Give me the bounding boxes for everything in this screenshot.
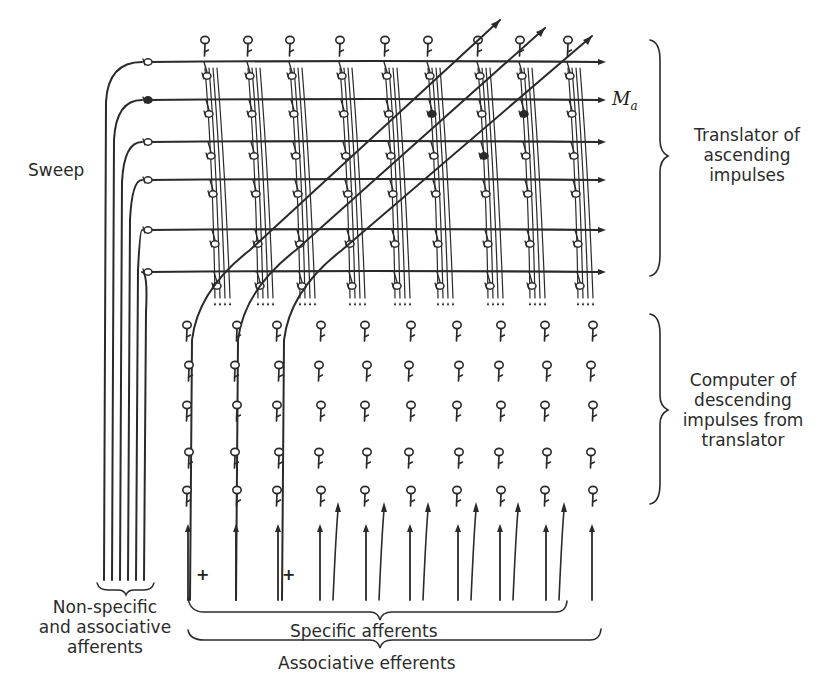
- computer-neuron-icon: [495, 448, 503, 455]
- computer-neuron-icon: [405, 361, 413, 368]
- efferent-fiber: [471, 510, 476, 600]
- neuron-axon: [593, 494, 594, 506]
- computer-neuron-icon: [361, 486, 369, 493]
- top-neuron-icon: [201, 36, 209, 43]
- computer-neuron-icon: [231, 361, 239, 368]
- fiber-end-icon: [534, 302, 536, 305]
- fiber-end-icon: [364, 302, 366, 305]
- label-translator: Translator of ascending impulses: [672, 125, 822, 185]
- computer-neuron-icon: [273, 321, 281, 328]
- neuron-axon: [501, 329, 502, 341]
- neuron-axon: [545, 329, 546, 341]
- neuron-axon: [545, 409, 546, 421]
- row-output-arrow-icon: [598, 269, 606, 275]
- computer-neuron-icon: [543, 361, 551, 368]
- computer-neuron-icon: [587, 448, 595, 455]
- computer-neuron-icon: [363, 361, 371, 368]
- computer-neuron-icon: [587, 361, 595, 368]
- plus-sign-2: +: [282, 565, 295, 584]
- computer-neuron-icon: [183, 486, 191, 493]
- fiber-end-icon: [582, 302, 584, 305]
- computer-neuron-icon: [361, 401, 369, 408]
- efferent-arrow-icon: [425, 502, 431, 512]
- fiber-end-icon: [394, 302, 396, 305]
- fiber-end-icon: [592, 302, 594, 305]
- efferent-arrow-icon: [335, 502, 341, 512]
- fiber-end-icon: [442, 302, 444, 305]
- computer-neuron-icon: [317, 401, 325, 408]
- afferent-arrow-icon: [589, 524, 595, 532]
- computer-neuron-icon: [541, 401, 549, 408]
- computer-neuron-icon: [497, 401, 505, 408]
- neuron-axon: [279, 456, 280, 468]
- fiber-end-icon: [529, 302, 531, 305]
- computer-neuron-icon: [273, 401, 281, 408]
- efferent-arrow-icon: [515, 502, 521, 512]
- computer-neuron-icon: [407, 321, 415, 328]
- computer-neuron-icon: [589, 401, 597, 408]
- fiber-end-icon: [314, 302, 316, 305]
- neuron-axon: [237, 409, 238, 421]
- fiber-end-icon: [437, 302, 439, 305]
- neuron-axon: [459, 456, 460, 468]
- fiber-end-icon: [492, 302, 494, 305]
- neuron-axon: [385, 44, 386, 56]
- fiber-end-icon: [229, 302, 231, 305]
- computer-neuron-icon: [541, 321, 549, 328]
- neural-translator-diagram: [0, 0, 825, 691]
- computer-neuron-icon: [233, 486, 241, 493]
- fiber-end-icon: [544, 302, 546, 305]
- computer-neuron-icon: [317, 321, 325, 328]
- label-sweep: Sweep: [28, 160, 84, 180]
- neuron-axon: [319, 369, 320, 381]
- row-output-arrow-icon: [598, 59, 606, 65]
- row-output-arrow-icon: [598, 139, 606, 145]
- computer-neuron-icon: [453, 321, 461, 328]
- neuron-axon: [321, 409, 322, 421]
- neuron-axon: [501, 494, 502, 506]
- fiber-end-icon: [539, 302, 541, 305]
- fiber-end-icon: [502, 302, 504, 305]
- neuron-axon: [365, 409, 366, 421]
- fiber-end-icon: [219, 302, 221, 305]
- efferent-fiber: [559, 510, 564, 600]
- neuron-axon: [478, 44, 479, 56]
- label-computer: Computer of descending impulses from tra…: [668, 370, 818, 450]
- label-non-specific-afferents: Non-specific and associative afferents: [30, 597, 180, 657]
- neuron-axon: [459, 369, 460, 381]
- neuron-axon: [411, 494, 412, 506]
- top-neuron-icon: [244, 36, 252, 43]
- fiber-end-icon: [447, 302, 449, 305]
- fiber-end-icon: [272, 302, 274, 305]
- neuron-axon: [365, 494, 366, 506]
- computer-neuron-icon: [543, 448, 551, 455]
- computer-neuron-icon: [185, 361, 193, 368]
- neuron-axon: [411, 409, 412, 421]
- top-neuron-icon: [564, 36, 572, 43]
- afferent-arrow-icon: [233, 524, 239, 532]
- computer-brace: [650, 314, 668, 504]
- neuron-axon: [428, 44, 429, 56]
- neuron-axon: [591, 456, 592, 468]
- translator-brace: [650, 40, 668, 276]
- fiber-end-icon: [409, 302, 411, 305]
- computer-neuron-icon: [273, 486, 281, 493]
- computer-neuron-icon: [407, 486, 415, 493]
- label-output-ma: Ma: [612, 88, 638, 113]
- translator-row-fiber: [148, 141, 600, 142]
- specific-afferents-brace: [188, 598, 567, 620]
- fiber-end-icon: [304, 302, 306, 305]
- neuron-axon: [290, 44, 291, 56]
- afferent-arrow-icon: [455, 524, 461, 532]
- fiber-end-icon: [257, 302, 259, 305]
- translator-row-fiber: [148, 61, 600, 62]
- neuron-axon: [545, 494, 546, 506]
- computer-neuron-icon: [497, 321, 505, 328]
- computer-neuron-icon: [541, 486, 549, 493]
- top-neuron-icon: [381, 36, 389, 43]
- efferent-fiber: [513, 510, 518, 600]
- computer-neuron-icon: [317, 486, 325, 493]
- neuron-axon: [593, 409, 594, 421]
- computer-neuron-icon: [497, 486, 505, 493]
- computer-neuron-icon: [233, 401, 241, 408]
